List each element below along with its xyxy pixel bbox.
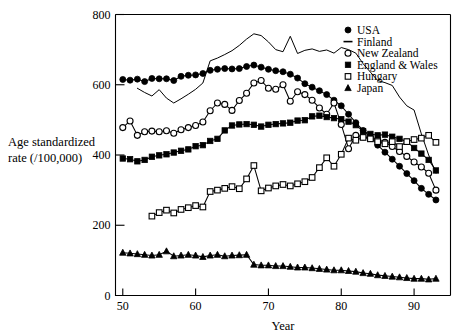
data-point-marker (433, 197, 439, 203)
x-tick-label: 80 (335, 299, 347, 313)
legend-marker-filled-circle (345, 27, 351, 33)
data-point-marker (127, 157, 132, 162)
data-point-marker (368, 136, 374, 142)
data-point-marker (244, 121, 249, 126)
data-point-marker (156, 129, 162, 135)
data-point-marker (346, 135, 352, 141)
data-point-marker (309, 84, 315, 90)
data-point-marker (338, 121, 344, 127)
x-tick-label: 70 (262, 299, 274, 313)
data-point-marker (316, 105, 322, 111)
data-point-marker (156, 153, 161, 158)
data-point-marker (258, 78, 264, 84)
data-point-marker (222, 186, 228, 192)
data-point-marker (164, 152, 169, 157)
data-point-marker (163, 76, 169, 82)
data-point-marker (193, 144, 198, 149)
data-point-marker (178, 73, 184, 79)
x-tick-label: 60 (190, 299, 202, 313)
data-point-marker (229, 123, 234, 128)
data-point-marker (186, 147, 191, 152)
data-point-marker (265, 85, 271, 91)
data-point-marker (302, 179, 308, 185)
data-point-marker (222, 128, 227, 133)
data-point-marker (163, 128, 169, 134)
line-chart-canvas: 5060708090 0200400600800 USAFinlandNew Z… (0, 0, 462, 334)
data-point-marker (346, 119, 351, 124)
y-tick-label: 0 (105, 289, 111, 303)
y-tick-label: 600 (93, 78, 111, 92)
data-point-marker (382, 132, 387, 137)
data-point-marker (273, 86, 279, 92)
data-point-marker (244, 176, 250, 182)
data-point-marker (397, 144, 403, 150)
data-point-marker (120, 156, 125, 161)
x-tick-label: 50 (117, 299, 129, 313)
data-point-marker (171, 210, 177, 216)
data-point-marker (433, 140, 439, 146)
data-point-marker (346, 111, 352, 117)
legend-marker-filled-square (345, 62, 350, 67)
x-axis-title: Year (271, 319, 295, 333)
data-point-marker (295, 75, 301, 81)
data-point-marker (346, 146, 352, 152)
data-point-marker (222, 66, 228, 72)
data-point-marker (404, 171, 410, 177)
data-point-marker (120, 125, 126, 131)
data-point-marker (302, 81, 308, 87)
data-point-marker (411, 159, 417, 165)
data-point-marker (236, 66, 242, 72)
y-axis-title-line-2: rate (/100,000) (8, 151, 82, 165)
data-point-marker (134, 76, 140, 82)
data-point-marker (382, 141, 388, 147)
data-point-marker (302, 92, 308, 98)
data-point-marker (273, 183, 279, 189)
data-point-marker (411, 178, 417, 184)
data-point-marker (418, 185, 424, 191)
data-point-marker (324, 155, 330, 161)
data-point-marker (171, 78, 177, 84)
data-point-marker (426, 191, 432, 197)
data-point-marker (200, 204, 206, 210)
data-point-marker (295, 118, 300, 123)
legend-label: New Zealand (357, 47, 419, 59)
data-point-marker (360, 135, 366, 141)
data-point-marker (200, 119, 206, 125)
data-point-marker (142, 129, 148, 135)
data-point-marker (426, 133, 432, 139)
data-point-marker (295, 181, 301, 187)
data-point-marker (426, 157, 431, 162)
legend-label: USA (357, 24, 381, 36)
data-point-marker (215, 136, 220, 141)
data-point-marker (338, 151, 344, 157)
data-point-marker (280, 69, 286, 75)
legend-marker-open-square (345, 74, 351, 80)
data-point-marker (353, 137, 359, 143)
data-point-marker (331, 163, 337, 169)
legend-item-new-zealand[interactable]: New Zealand (345, 47, 419, 59)
data-point-marker (309, 97, 315, 103)
y-axis-title-line-1: Age standardized (8, 135, 96, 149)
data-point-marker (404, 139, 410, 145)
data-point-marker (375, 139, 381, 145)
data-point-marker (324, 114, 329, 119)
data-point-marker (331, 100, 337, 106)
data-point-marker (287, 183, 293, 189)
data-point-marker (229, 184, 235, 190)
data-point-marker (127, 118, 133, 124)
data-point-marker (258, 188, 264, 194)
data-point-marker (302, 118, 307, 123)
data-point-marker (317, 113, 322, 118)
data-point-marker (258, 124, 263, 129)
data-point-marker (433, 187, 439, 193)
data-point-marker (280, 182, 286, 188)
data-point-marker (149, 75, 155, 81)
data-point-marker (251, 80, 257, 86)
data-point-marker (258, 64, 264, 70)
data-point-marker (214, 66, 220, 72)
data-point-marker (185, 72, 191, 78)
data-point-marker (142, 157, 147, 162)
data-point-marker (237, 186, 243, 192)
data-point-marker (142, 79, 148, 85)
data-point-marker (134, 132, 140, 138)
